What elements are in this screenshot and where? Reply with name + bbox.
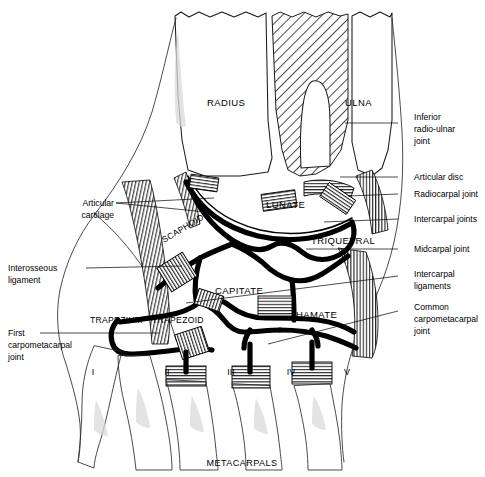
callout-first-cmc-joint-line-3: joint — [7, 352, 24, 362]
ligament-band-first-cmc — [175, 326, 210, 359]
numeral-metacarpal-5: V — [344, 367, 350, 377]
radius-bone — [175, 12, 272, 176]
ligament-band-radial — [189, 174, 219, 192]
label-ulna: ULNA — [345, 97, 372, 108]
callout-midcarpal-joint: Midcarpal joint — [414, 244, 470, 254]
label-radius: RADIUS — [207, 97, 245, 108]
anatomy-illustration: RADIUS ULNA SCAPHOID LUNATE TRIQUETRAL C… — [0, 0, 485, 477]
callout-articular-cartilage-line-2: cartilage — [82, 210, 115, 220]
label-triquetral: TRIQUETRAL — [311, 235, 375, 246]
numeral-metacarpal-2: II — [164, 367, 169, 377]
callout-common-cmc-joint-line-1: Common — [414, 302, 449, 312]
numeral-metacarpal-3: III — [227, 367, 235, 377]
label-trapezoid: TRAPEZOID — [152, 315, 204, 325]
callout-interosseous-ligament-line-2: ligament — [8, 275, 41, 285]
callout-common-cmc-joint-line-2: carpometacarpal — [414, 314, 478, 324]
callout-intercarpal-ligaments-line-2: ligaments — [414, 281, 451, 291]
label-trapezium: TRAPEZIUM — [90, 315, 142, 325]
shading-mc4 — [254, 398, 268, 434]
metacarpal-I — [78, 346, 122, 468]
callout-first-cmc-joint-line-2: carpometacarpal — [8, 340, 72, 350]
callout-intercarpal-joints: Intercarpal joints — [414, 214, 477, 224]
shading-mc3 — [190, 396, 204, 432]
callouts-left: Articular cartilage Interosseous ligamen… — [7, 198, 114, 362]
shading-mc5 — [312, 396, 326, 430]
ulnar-head-notch — [300, 81, 330, 168]
callout-articular-disc: Articular disc — [414, 172, 464, 182]
wrist-anatomy-figure: RADIUS ULNA SCAPHOID LUNATE TRIQUETRAL C… — [0, 0, 485, 477]
callout-intercarpal-ligaments-line-1: Intercarpal — [414, 269, 455, 279]
callout-articular-cartilage-line-1: Articular — [82, 198, 114, 208]
forearm-bones — [175, 12, 392, 176]
label-lunate: LUNATE — [266, 199, 305, 210]
ulnar-styloid-fan — [356, 170, 388, 234]
callout-radiocarpal-joint: Radiocarpal joint — [414, 189, 479, 199]
figure-caption: METACARPALS — [206, 458, 277, 468]
callout-interosseous-ligament-line-1: Interosseous — [8, 263, 57, 273]
callout-inferior-radio-ulnar-joint-line-3: joint — [413, 136, 430, 146]
callouts-right: Inferior radio-ulnar joint Articular dis… — [413, 112, 479, 336]
callout-first-cmc-joint-line-1: First — [8, 328, 25, 338]
callout-inferior-radio-ulnar-joint-line-2: radio-ulnar — [414, 124, 455, 134]
callout-common-cmc-joint-line-3: joint — [413, 326, 430, 336]
ligament-band-capitate-hamate — [258, 296, 292, 316]
label-hamate: HAMATE — [296, 309, 337, 320]
numeral-metacarpal-1: I — [92, 367, 95, 377]
numeral-metacarpal-4: IV — [287, 367, 296, 377]
shading-mc2 — [136, 388, 150, 428]
ulna-bone — [352, 12, 392, 176]
callout-inferior-radio-ulnar-joint-line-1: Inferior — [414, 112, 441, 122]
label-scaphoid: SCAPHOID — [160, 212, 206, 245]
